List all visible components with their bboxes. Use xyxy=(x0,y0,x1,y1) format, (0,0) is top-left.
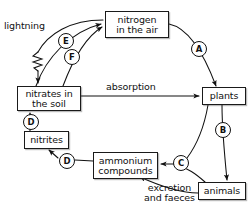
label-absorption: absorption xyxy=(106,82,156,92)
node-nitrogen-in-the-air[interactable]: nitrogen in the air xyxy=(105,11,169,38)
edge-ammonium-to-nitrites xyxy=(75,160,93,161)
edge-plants-to-animals xyxy=(222,105,227,180)
node-nitrites-label: nitrites xyxy=(30,135,63,145)
node-nitrates-in-the-soil[interactable]: nitrates in the soil xyxy=(17,86,81,111)
node-animals[interactable]: animals xyxy=(198,182,246,200)
edge-plants-to-ammonium xyxy=(187,105,208,158)
node-ammonium-compounds[interactable]: ammonium compounds xyxy=(93,152,158,179)
node-nitrates-in-the-soil-line1: nitrates in xyxy=(25,89,72,99)
marker-f[interactable]: F xyxy=(64,49,80,65)
marker-d-lower[interactable]: D xyxy=(59,153,75,169)
nitrogen-cycle-diagram: nitrogen in the air nitrates in the soil… xyxy=(0,0,249,210)
marker-d-upper[interactable]: D xyxy=(23,114,39,130)
node-nitrogen-in-the-air-line1: nitrogen xyxy=(116,15,158,25)
node-plants[interactable]: plants xyxy=(202,87,246,105)
node-nitrites[interactable]: nitrites xyxy=(24,131,69,149)
node-nitrogen-in-the-air-line2: in the air xyxy=(116,25,158,35)
label-excretion-and-faeces: excretion and faeces xyxy=(144,183,195,203)
marker-c[interactable]: C xyxy=(173,155,189,171)
node-nitrates-in-the-soil-line2: the soil xyxy=(25,99,72,109)
node-ammonium-compounds-line2: compounds xyxy=(98,166,152,176)
marker-e[interactable]: E xyxy=(58,33,74,49)
lightning-bolt-icon xyxy=(33,52,42,71)
node-animals-label: animals xyxy=(204,186,240,196)
edge-nitrogen-to-plants xyxy=(169,24,216,86)
node-ammonium-compounds-line1: ammonium xyxy=(98,156,152,166)
label-lightning: lightning xyxy=(4,21,45,31)
edge-d2-to-nitrites xyxy=(49,150,58,158)
marker-a[interactable]: A xyxy=(191,41,207,57)
marker-b[interactable]: B xyxy=(215,122,231,138)
node-plants-label: plants xyxy=(210,91,239,101)
